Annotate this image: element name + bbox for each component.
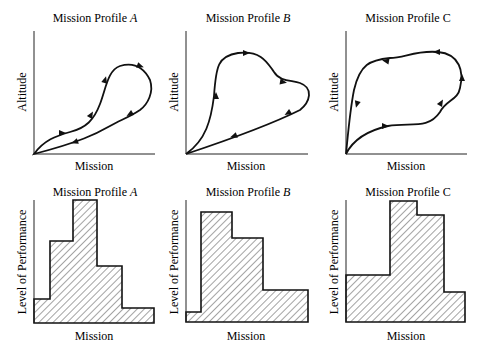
axes-top-a — [34, 31, 155, 154]
arrow-icon — [353, 100, 361, 108]
xlabel-top-a: Mission — [75, 159, 114, 173]
arrow-icon — [382, 123, 389, 129]
altitude-loop-b — [186, 53, 309, 154]
mission-profiles-figure: Mission Profile A Mission Profile B Miss… — [0, 0, 485, 358]
ylabel-bottom-b: Level of Performance — [167, 210, 181, 315]
title-bottom-c: Mission Profile C — [365, 185, 450, 199]
title-top-a: Mission Profile A — [53, 11, 138, 25]
performance-step-charts — [34, 200, 465, 323]
altitude-loop-a — [34, 65, 151, 154]
ylabel-top-c: Altitude — [327, 72, 341, 111]
xlabel-top-c: Mission — [387, 159, 426, 173]
ylabel-top-b: Altitude — [167, 72, 181, 111]
ylabel-bottom-a: Level of Performance — [15, 210, 29, 315]
arrow-icon — [433, 49, 440, 55]
performance-area — [186, 212, 308, 322]
direction-arrow-icons — [59, 49, 465, 146]
axes-top-b — [186, 31, 308, 154]
arrow-icon — [459, 74, 465, 81]
title-top-b: Mission Profile B — [206, 11, 291, 25]
performance-area — [34, 200, 154, 323]
altitude-loop-c — [346, 52, 461, 154]
arrow-icon — [243, 50, 250, 56]
ylabel-top-a: Altitude — [15, 72, 29, 111]
xlabel-bottom-b: Mission — [227, 329, 266, 343]
title-bottom-b: Mission Profile B — [206, 185, 291, 199]
xlabel-bottom-a: Mission — [75, 329, 114, 343]
performance-area — [346, 201, 465, 322]
xlabel-top-b: Mission — [227, 159, 266, 173]
title-bottom-a: Mission Profile A — [53, 185, 138, 199]
xlabel-bottom-c: Mission — [387, 329, 426, 343]
ylabel-bottom-c: Level of Performance — [327, 210, 341, 315]
title-top-c: Mission Profile C — [365, 11, 450, 25]
